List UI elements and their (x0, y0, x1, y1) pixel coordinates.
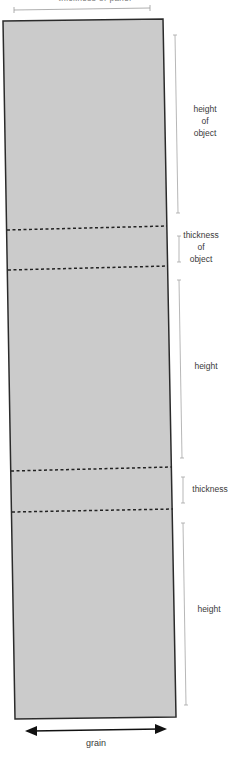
grain-label: grain (71, 737, 121, 749)
label-height-of-object: height of object (180, 103, 228, 139)
board-rectangle (3, 19, 176, 719)
label-thickness-of-object: thickness of object (176, 229, 226, 265)
label-height-2: height (181, 360, 228, 372)
top-dimension-line (14, 5, 150, 13)
label-height-3: height (184, 603, 228, 615)
grain-arrow-icon (25, 724, 167, 736)
label-thickness-2: thickness (185, 483, 228, 495)
